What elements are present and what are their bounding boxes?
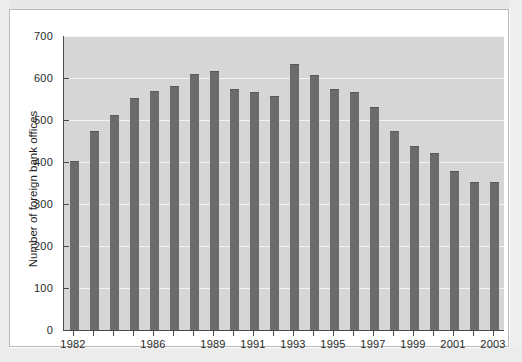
- bar: [270, 96, 279, 330]
- x-axis-line: [63, 330, 504, 331]
- x-axis-tick-mark: [393, 331, 394, 336]
- bar: [310, 75, 319, 330]
- bar: [330, 89, 339, 330]
- y-axis-tick-mark: [63, 288, 69, 289]
- bar: [130, 98, 139, 330]
- x-axis-tick-mark: [493, 331, 494, 336]
- figure: Number of foreign bank offices 010020030…: [0, 0, 522, 362]
- x-axis-tick-label: 1982: [60, 338, 85, 350]
- bar: [290, 64, 299, 330]
- bar: [250, 92, 259, 330]
- x-axis-tick-mark: [333, 331, 334, 336]
- y-axis: 0100200300400500600700: [10, 10, 63, 348]
- x-axis-tick-label: 2003: [480, 338, 505, 350]
- page-edge-top: [0, 0, 522, 9]
- x-axis-tick-mark: [373, 331, 374, 336]
- y-axis-tick-label: 500: [34, 114, 53, 126]
- x-axis-tick-mark: [233, 331, 234, 336]
- x-axis-tick-label: 1991: [240, 338, 265, 350]
- x-axis-tick-mark: [313, 331, 314, 336]
- bar: [410, 146, 419, 330]
- x-axis-tick-mark: [473, 331, 474, 336]
- x-axis-tick-mark: [413, 331, 414, 336]
- x-axis-tick-mark: [153, 331, 154, 336]
- y-axis-tick-mark: [63, 162, 69, 163]
- bar: [430, 153, 439, 330]
- bar: [230, 89, 239, 330]
- x-axis-tick-mark: [253, 331, 254, 336]
- x-axis-tick-mark: [353, 331, 354, 336]
- gridline: [64, 36, 504, 37]
- y-axis-tick-mark: [63, 120, 69, 121]
- page-edge-right: [510, 0, 522, 362]
- bar: [490, 182, 499, 330]
- x-axis-tick-label: 1995: [320, 338, 345, 350]
- bar: [150, 91, 159, 330]
- bar: [370, 107, 379, 330]
- chart-frame: Number of foreign bank offices 010020030…: [9, 9, 509, 347]
- x-axis-tick-mark: [93, 331, 94, 336]
- y-axis-tick-label: 100: [34, 282, 53, 294]
- bar: [90, 131, 99, 330]
- x-axis-tick-label: 1989: [200, 338, 225, 350]
- bar: [70, 161, 79, 330]
- bar: [210, 71, 219, 330]
- x-axis-tick-mark: [193, 331, 194, 336]
- bar: [170, 86, 179, 330]
- bar: [470, 182, 479, 330]
- x-axis-tick-label: 1993: [280, 338, 305, 350]
- x-axis-tick-label: 2001: [440, 338, 465, 350]
- y-axis-tick-label: 300: [34, 198, 53, 210]
- bar: [450, 171, 459, 330]
- y-axis-tick-label: 0: [47, 324, 53, 336]
- page-edge-bottom: [0, 348, 522, 362]
- y-axis-tick-label: 400: [34, 156, 53, 168]
- page-edge-left: [0, 0, 9, 362]
- bar: [350, 92, 359, 330]
- y-axis-tick-mark: [63, 78, 69, 79]
- x-axis-tick-mark: [433, 331, 434, 336]
- x-axis-tick-mark: [273, 331, 274, 336]
- plot-area: [63, 36, 504, 330]
- x-axis-tick-label: 1997: [360, 338, 385, 350]
- y-axis-tick-label: 200: [34, 240, 53, 252]
- bar: [190, 74, 199, 330]
- x-axis-tick-mark: [73, 331, 74, 336]
- x-axis-tick-mark: [293, 331, 294, 336]
- x-axis-tick-mark: [453, 331, 454, 336]
- x-axis-tick-mark: [213, 331, 214, 336]
- y-axis-tick-mark: [63, 204, 69, 205]
- x-axis-tick-mark: [113, 331, 114, 336]
- y-axis-tick-label: 700: [34, 30, 53, 42]
- bar: [390, 131, 399, 330]
- x-axis-tick-mark: [133, 331, 134, 336]
- y-axis-tick-mark: [63, 246, 69, 247]
- y-axis-tick-label: 600: [34, 72, 53, 84]
- bar: [110, 115, 119, 330]
- gridline: [64, 78, 504, 79]
- x-axis-tick-label: 1999: [400, 338, 425, 350]
- x-axis-tick-label: 1986: [140, 338, 165, 350]
- x-axis-tick-mark: [173, 331, 174, 336]
